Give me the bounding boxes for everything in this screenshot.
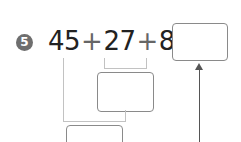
total-sum-box[interactable] bbox=[66, 125, 123, 142]
long-bracket-bottom bbox=[63, 121, 126, 122]
bracket-bottom bbox=[104, 68, 147, 69]
plus-operator: + bbox=[81, 26, 102, 56]
term-45: 45 bbox=[48, 26, 80, 56]
long-bracket-left bbox=[63, 58, 64, 122]
arrow-line bbox=[199, 69, 200, 142]
problem-number-badge: 5 bbox=[16, 34, 33, 51]
final-answer-box[interactable] bbox=[172, 23, 228, 61]
term-27: 27 bbox=[103, 26, 135, 56]
partial-sum-box[interactable] bbox=[97, 72, 154, 112]
plus-operator: + bbox=[136, 26, 157, 56]
